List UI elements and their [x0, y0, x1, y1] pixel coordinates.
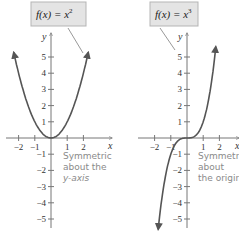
x-tick-label: −2 [14, 142, 24, 152]
y-tick-label: −5 [36, 214, 46, 224]
callout-pointer [68, 28, 83, 53]
y-tick-label: −2 [172, 165, 182, 175]
y-tick-label: 4 [178, 68, 183, 78]
symmetry-note-line: Symmetric [63, 151, 112, 161]
callout-main: f(x) = x [36, 8, 69, 21]
y-tick-label: 2 [178, 101, 183, 111]
y-tick-label: 1 [178, 117, 183, 127]
y-tick-label: −4 [172, 198, 182, 208]
y-axis-label: y [177, 31, 183, 42]
symmetry-note-line: about the [63, 162, 107, 172]
y-tick-label: 5 [42, 52, 47, 62]
symmetry-note-line: y-axis [62, 173, 90, 183]
callout-exponent: 2 [69, 7, 73, 15]
symmetry-note-line: Symmetric [198, 151, 239, 161]
symmetry-note-line: the origin [198, 173, 239, 183]
y-tick-label: −2 [36, 165, 46, 175]
y-tick-label: 1 [42, 117, 47, 127]
x-axis-label: x [107, 140, 113, 151]
y-tick-label: −3 [36, 182, 46, 192]
callout-label: f(x) = x3 [155, 7, 192, 21]
figure: yx−2−11212345−1−2−3−4−5f(x) = x2Symmetri… [0, 0, 239, 247]
y-tick-label: −1 [36, 149, 46, 159]
y-tick-label: 3 [178, 84, 183, 94]
y-tick-label: 5 [178, 52, 183, 62]
y-tick-label: −1 [172, 149, 182, 159]
y-tick-label: −4 [36, 198, 46, 208]
x-axis-label: x [234, 140, 239, 151]
callout-label: f(x) = x2 [36, 7, 73, 21]
y-tick-label: 2 [42, 101, 47, 111]
panel-x-cubed: yx−2−11212345−1−2−3−4−5f(x) = x3Symmetri… [138, 2, 239, 229]
y-tick-label: −3 [172, 182, 182, 192]
chart-canvas: yx−2−11212345−1−2−3−4−5f(x) = x2Symmetri… [0, 0, 239, 247]
callout-pointer [160, 28, 175, 50]
y-tick-label: −5 [172, 214, 182, 224]
y-axis-label: y [41, 31, 47, 42]
y-tick-label: 3 [42, 84, 47, 94]
callout-exponent: 3 [188, 7, 192, 15]
callout-main: f(x) = x [155, 8, 188, 21]
symmetry-note-line: about [198, 162, 224, 172]
y-tick-label: 4 [42, 68, 47, 78]
x-tick-label: −2 [150, 142, 160, 152]
panel-x-squared: yx−2−11212345−1−2−3−4−5f(x) = x2Symmetri… [6, 2, 113, 228]
